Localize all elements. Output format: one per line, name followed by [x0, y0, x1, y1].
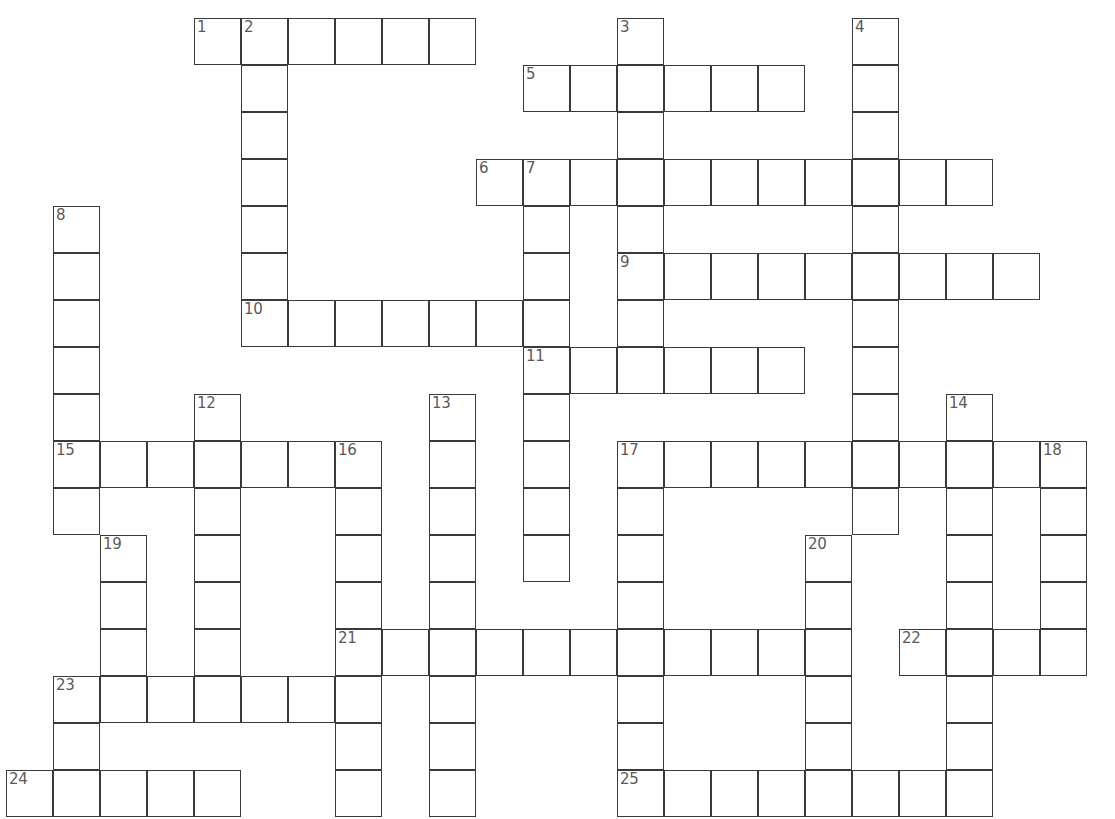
crossword-cell-numbered[interactable]: 17 — [617, 441, 664, 488]
crossword-cell-numbered[interactable]: 2 — [241, 18, 288, 65]
crossword-cell[interactable] — [382, 629, 429, 676]
crossword-cell[interactable] — [429, 770, 476, 817]
crossword-cell[interactable] — [1040, 629, 1087, 676]
crossword-cell[interactable] — [946, 723, 993, 770]
crossword-cell[interactable] — [241, 441, 288, 488]
crossword-cell[interactable] — [194, 535, 241, 582]
crossword-cell[interactable] — [476, 300, 523, 347]
crossword-cell-numbered[interactable]: 11 — [523, 347, 570, 394]
crossword-cell[interactable] — [758, 65, 805, 112]
crossword-cell[interactable] — [335, 18, 382, 65]
crossword-cell[interactable] — [241, 65, 288, 112]
crossword-cell-numbered[interactable]: 1 — [194, 18, 241, 65]
crossword-cell[interactable] — [617, 159, 664, 206]
crossword-cell[interactable] — [100, 676, 147, 723]
crossword-cell[interactable] — [570, 347, 617, 394]
crossword-cell[interactable] — [664, 347, 711, 394]
crossword-cell-numbered[interactable]: 10 — [241, 300, 288, 347]
crossword-cell[interactable] — [852, 488, 899, 535]
crossword-cell[interactable] — [805, 770, 852, 817]
crossword-cell[interactable] — [53, 347, 100, 394]
crossword-cell[interactable] — [852, 441, 899, 488]
crossword-cell[interactable] — [382, 18, 429, 65]
crossword-cell[interactable] — [805, 441, 852, 488]
crossword-cell-numbered[interactable]: 19 — [100, 535, 147, 582]
crossword-cell-numbered[interactable]: 16 — [335, 441, 382, 488]
crossword-cell[interactable] — [664, 770, 711, 817]
crossword-cell[interactable] — [758, 347, 805, 394]
crossword-cell[interactable] — [711, 770, 758, 817]
crossword-cell[interactable] — [852, 300, 899, 347]
crossword-cell[interactable] — [852, 770, 899, 817]
crossword-cell[interactable] — [523, 206, 570, 253]
crossword-cell[interactable] — [476, 629, 523, 676]
crossword-cell[interactable] — [241, 159, 288, 206]
crossword-cell[interactable] — [946, 488, 993, 535]
crossword-cell[interactable] — [711, 629, 758, 676]
crossword-cell[interactable] — [288, 441, 335, 488]
crossword-cell-numbered[interactable]: 6 — [476, 159, 523, 206]
crossword-cell[interactable] — [946, 582, 993, 629]
crossword-cell[interactable] — [429, 582, 476, 629]
crossword-cell[interactable] — [993, 441, 1040, 488]
crossword-cell-numbered[interactable]: 24 — [6, 770, 53, 817]
crossword-cell[interactable] — [194, 441, 241, 488]
crossword-cell[interactable] — [1040, 535, 1087, 582]
crossword-cell[interactable] — [617, 723, 664, 770]
crossword-cell[interactable] — [53, 770, 100, 817]
crossword-cell[interactable] — [241, 112, 288, 159]
crossword-cell[interactable] — [53, 253, 100, 300]
crossword-cell[interactable] — [711, 253, 758, 300]
crossword-cell-numbered[interactable]: 14 — [946, 394, 993, 441]
crossword-cell-numbered[interactable]: 9 — [617, 253, 664, 300]
crossword-cell[interactable] — [288, 18, 335, 65]
crossword-cell[interactable] — [664, 159, 711, 206]
crossword-cell[interactable] — [852, 159, 899, 206]
crossword-cell[interactable] — [335, 488, 382, 535]
crossword-cell-numbered[interactable]: 8 — [53, 206, 100, 253]
crossword-cell[interactable] — [1040, 582, 1087, 629]
crossword-cell[interactable] — [429, 18, 476, 65]
crossword-cell[interactable] — [617, 206, 664, 253]
crossword-cell[interactable] — [241, 206, 288, 253]
crossword-cell[interactable] — [194, 629, 241, 676]
crossword-cell[interactable] — [805, 629, 852, 676]
crossword-cell[interactable] — [805, 582, 852, 629]
crossword-cell-numbered[interactable]: 20 — [805, 535, 852, 582]
crossword-cell[interactable] — [805, 676, 852, 723]
crossword-cell[interactable] — [758, 253, 805, 300]
crossword-cell[interactable] — [429, 300, 476, 347]
crossword-cell[interactable] — [194, 582, 241, 629]
crossword-cell-numbered[interactable]: 21 — [335, 629, 382, 676]
crossword-cell[interactable] — [523, 253, 570, 300]
crossword-cell[interactable] — [570, 159, 617, 206]
crossword-cell[interactable] — [100, 629, 147, 676]
crossword-cell[interactable] — [429, 488, 476, 535]
crossword-cell-numbered[interactable]: 4 — [852, 18, 899, 65]
crossword-cell[interactable] — [570, 65, 617, 112]
crossword-cell-numbered[interactable]: 22 — [899, 629, 946, 676]
crossword-cell[interactable] — [852, 394, 899, 441]
crossword-cell-numbered[interactable]: 25 — [617, 770, 664, 817]
crossword-cell[interactable] — [147, 770, 194, 817]
crossword-cell[interactable] — [758, 770, 805, 817]
crossword-cell[interactable] — [53, 394, 100, 441]
crossword-cell[interactable] — [899, 253, 946, 300]
crossword-cell[interactable] — [53, 488, 100, 535]
crossword-cell[interactable] — [617, 582, 664, 629]
crossword-cell[interactable] — [523, 300, 570, 347]
crossword-cell[interactable] — [429, 629, 476, 676]
crossword-cell[interactable] — [53, 723, 100, 770]
crossword-cell[interactable] — [852, 206, 899, 253]
crossword-cell[interactable] — [758, 441, 805, 488]
crossword-cell[interactable] — [335, 535, 382, 582]
crossword-cell[interactable] — [382, 300, 429, 347]
crossword-cell[interactable] — [758, 159, 805, 206]
crossword-cell[interactable] — [899, 159, 946, 206]
crossword-cell[interactable] — [100, 770, 147, 817]
crossword-cell[interactable] — [429, 723, 476, 770]
crossword-grid[interactable]: 1234567891011121314151617181920212223242… — [0, 0, 1115, 819]
crossword-cell[interactable] — [946, 770, 993, 817]
crossword-cell[interactable] — [993, 253, 1040, 300]
crossword-cell[interactable] — [335, 676, 382, 723]
